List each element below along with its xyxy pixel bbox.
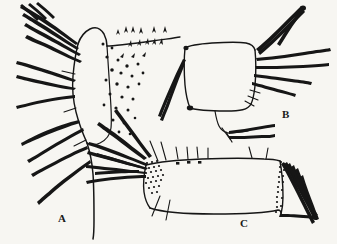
panel-c-body-outline xyxy=(144,158,283,214)
figure-plate: A B C xyxy=(0,0,337,244)
panel-a-setae-mid xyxy=(16,61,76,109)
panel-label-c: C xyxy=(240,218,248,229)
panel-b-left-setae xyxy=(158,59,186,121)
panel-b-comb-teeth xyxy=(245,90,260,106)
figure-drawing xyxy=(0,0,337,244)
panel-a-drawing xyxy=(16,5,180,239)
panel-a-body-outline xyxy=(73,28,180,239)
panel-b-lower-setae xyxy=(229,124,275,139)
panel-a-setae-lower xyxy=(21,120,91,205)
panel-c-dorsal-dots xyxy=(176,161,201,165)
panel-c-posterior-stipple xyxy=(275,161,285,213)
panel-label-b: B xyxy=(282,109,290,120)
panel-label-a: A xyxy=(58,213,66,224)
panel-b-drawing xyxy=(158,5,331,142)
panel-c-ventral-setae xyxy=(152,196,170,220)
panel-b-lateral-setae xyxy=(252,48,331,97)
stray-setae-top xyxy=(20,2,55,21)
panel-c-drawing xyxy=(86,109,319,224)
panel-c-anterior-brush xyxy=(86,109,152,184)
panel-c-caudal-tuft xyxy=(279,162,319,224)
